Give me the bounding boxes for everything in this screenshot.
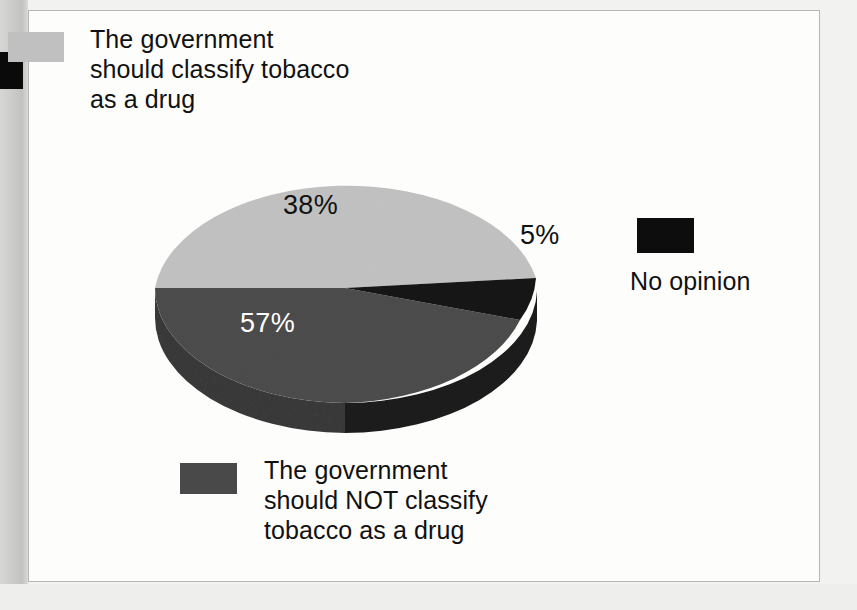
scanned-chart-page: 38% 57% 5% The government should classif… [0,0,857,610]
scan-edge-strip [0,0,28,596]
pie-chart: 38% 57% 5% [148,160,548,450]
legend-swatch-black [637,218,694,253]
pie-value-label-not-classify: 57% [240,308,295,339]
legend-swatch-dark-gray [180,463,237,494]
pie-value-label-classify: 38% [283,190,338,221]
pie-value-label-no-opinion: 5% [520,220,560,251]
legend-label-no-opinion: No opinion [630,266,830,296]
legend-label-classify: The government should classify tobacco a… [90,24,430,114]
legend-label-not-classify: The government should NOT classify tobac… [264,455,624,545]
pie-chart-svg [148,160,548,450]
legend-swatch-light-gray [8,32,64,62]
pie-slice-classify [155,186,536,288]
scan-bottom-margin [0,584,857,610]
